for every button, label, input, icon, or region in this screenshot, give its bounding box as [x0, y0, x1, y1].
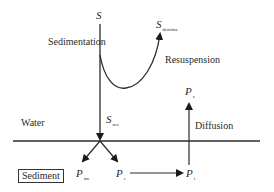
label-s-detritus: Sdetritus: [156, 19, 178, 32]
label-p-im-subscript: im: [84, 176, 89, 181]
label-p-im-symbol: P: [76, 167, 83, 179]
label-p-e-subscript: e: [124, 176, 126, 181]
label-p-s-subscript: s: [193, 94, 195, 99]
label-p-s: Ps: [185, 86, 195, 99]
label-diffusion: Diffusion: [195, 121, 233, 131]
label-s: S: [96, 10, 102, 21]
label-p-i-symbol: P: [186, 167, 193, 179]
label-s-net: Snet: [106, 114, 119, 127]
arrow-to-p-im: [83, 141, 100, 161]
label-p-i: Pi: [186, 168, 195, 181]
label-s-net-subscript: net: [113, 122, 119, 127]
label-s-net-symbol: S: [106, 113, 112, 125]
label-p-i-subscript: i: [194, 176, 195, 181]
label-water: Water: [21, 118, 45, 128]
label-s-symbol: S: [96, 9, 102, 21]
label-s-detritus-symbol: S: [156, 18, 162, 30]
resuspension-curve: [100, 34, 160, 88]
diagram-canvas: [0, 0, 274, 192]
label-p-s-symbol: P: [185, 85, 192, 97]
label-sedimentation: Sedimentation: [48, 37, 106, 47]
arrow-to-p-e: [100, 141, 117, 161]
label-p-e: Pe: [116, 168, 126, 181]
label-resuspension: Resuspension: [165, 55, 220, 65]
label-p-e-symbol: P: [116, 167, 123, 179]
label-s-detritus-subscript: detritus: [163, 27, 178, 32]
label-sediment: Sediment: [18, 169, 64, 183]
label-p-im: Pim: [76, 168, 89, 181]
